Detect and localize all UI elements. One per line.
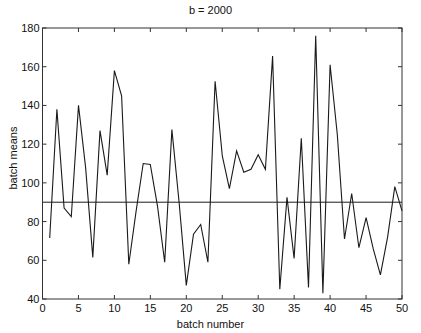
axes-frame [43, 28, 403, 299]
batch-means-line [50, 36, 402, 294]
x-tick-label: 35 [288, 302, 300, 314]
x-tick-label: 0 [39, 302, 45, 314]
x-tick-label: 50 [396, 302, 408, 314]
y-axis-label: batch means [7, 113, 19, 203]
x-tick-label: 25 [216, 302, 228, 314]
x-axis-label: batch number [0, 318, 421, 330]
y-tick-label: 100 [21, 177, 39, 189]
y-tick-label: 120 [21, 138, 39, 150]
y-tick-label: 140 [21, 99, 39, 111]
line-chart: b = 2000 0510152025303540455040608010012… [0, 0, 421, 333]
x-tick-label: 10 [108, 302, 120, 314]
y-tick-label: 40 [27, 293, 39, 305]
y-tick-label: 160 [21, 61, 39, 73]
x-tick-label: 30 [252, 302, 264, 314]
x-tick-label: 15 [144, 302, 156, 314]
x-tick-label: 20 [180, 302, 192, 314]
x-tick-label: 40 [324, 302, 336, 314]
y-tick-label: 80 [27, 216, 39, 228]
chart-title: b = 2000 [0, 4, 421, 16]
y-tick-label: 60 [27, 254, 39, 266]
plot-area: 0510152025303540455040608010012014016018… [0, 0, 421, 333]
y-tick-label: 180 [21, 22, 39, 34]
x-tick-label: 45 [360, 302, 372, 314]
x-tick-label: 5 [75, 302, 81, 314]
